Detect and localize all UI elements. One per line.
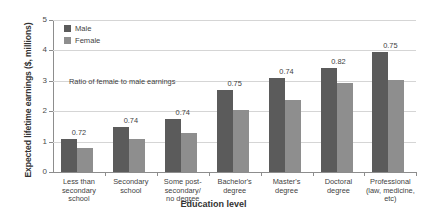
bar-group-less-than-secondary: 0.72 xyxy=(53,20,105,172)
ratio-label-1: 0.72 xyxy=(53,128,105,137)
chart-figure: Expected lifetime earnings ($, millions)… xyxy=(0,0,427,220)
bar-female-3 xyxy=(181,133,197,172)
bar-male-7 xyxy=(372,52,388,172)
y-tick-mark-0 xyxy=(49,172,53,173)
ratio-label-5: 0.74 xyxy=(261,67,313,76)
bar-female-4 xyxy=(233,110,249,172)
x-category-line: school xyxy=(105,187,157,196)
bar-male-6 xyxy=(321,68,337,172)
x-category-label-2: Secondary school xyxy=(105,178,157,195)
x-axis-line xyxy=(53,172,416,173)
bar-female-5 xyxy=(285,100,301,172)
x-tick-mark-2 xyxy=(157,172,158,176)
x-category-label-5: Master's degree xyxy=(261,178,313,195)
y-tick-label-1: 1 xyxy=(34,137,47,146)
bar-female-6 xyxy=(337,83,353,172)
x-tick-mark-6 xyxy=(364,172,365,176)
x-tick-mark-5 xyxy=(313,172,314,176)
y-tick-label-5: 5 xyxy=(34,15,47,24)
x-category-line: degree xyxy=(313,187,365,196)
bar-group-bachelors-degree: 0.75 xyxy=(209,20,261,172)
x-category-label-6: Doctoral degree xyxy=(313,178,365,195)
bar-group-doctoral-degree: 0.82 xyxy=(313,20,365,172)
ratio-label-2: 0.74 xyxy=(105,116,157,125)
bar-male-4 xyxy=(217,90,233,172)
x-axis-title: Education level xyxy=(0,199,427,209)
bar-male-5 xyxy=(269,78,285,172)
x-tick-mark-4 xyxy=(261,172,262,176)
y-tick-label-3: 3 xyxy=(34,76,47,85)
bar-male-2 xyxy=(113,127,129,172)
x-category-line: degree xyxy=(209,187,261,196)
y-tick-label-0: 0 xyxy=(34,167,47,176)
bar-female-2 xyxy=(129,139,145,172)
y-tick-label-2: 2 xyxy=(34,106,47,115)
y-tick-label-4: 4 xyxy=(34,45,47,54)
bar-group-some-post-secondary: 0.74 xyxy=(157,20,209,172)
ratio-label-3: 0.74 xyxy=(157,108,209,117)
ratio-label-7: 0.75 xyxy=(364,41,416,50)
x-tick-mark-3 xyxy=(209,172,210,176)
x-category-label-4: Bachelor's degree xyxy=(209,178,261,195)
bar-male-3 xyxy=(165,119,181,172)
plot-area: 5 4 3 2 1 0 Male Female Ratio of female … xyxy=(53,20,416,172)
bar-group-professional: 0.75 xyxy=(364,20,416,172)
bar-group-masters-degree: 0.74 xyxy=(261,20,313,172)
ratio-label-4: 0.75 xyxy=(209,79,261,88)
bar-female-7 xyxy=(388,80,404,172)
y-axis-title: Expected lifetime earnings ($, millions) xyxy=(23,15,33,185)
bar-male-1 xyxy=(61,139,77,172)
x-tick-mark-1 xyxy=(105,172,106,176)
bar-group-secondary-school: 0.74 xyxy=(105,20,157,172)
bar-female-1 xyxy=(77,148,93,172)
x-tick-mark-7 xyxy=(416,172,417,176)
x-category-line: degree xyxy=(261,187,313,196)
ratio-label-6: 0.82 xyxy=(313,57,365,66)
